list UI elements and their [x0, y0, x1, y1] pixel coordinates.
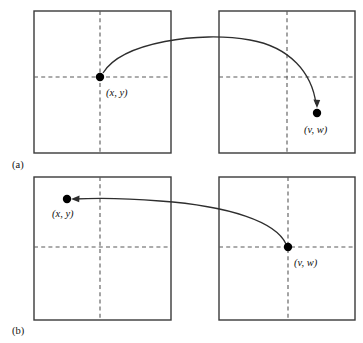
point-marker-1 [313, 109, 321, 117]
panel-b: (x, y)(v, w)(b) [12, 177, 355, 337]
panel-square-0 [34, 11, 171, 153]
panel-square-group-0 [34, 11, 171, 153]
figure-container: (x, y)(v, w)(a)(x, y)(v, w)(b) [0, 0, 363, 343]
panel-square-1 [219, 11, 355, 153]
panel-a: (x, y)(v, w)(a) [12, 11, 355, 171]
point-marker-1 [284, 243, 292, 251]
diagram-canvas: (x, y)(v, w)(a)(x, y)(v, w)(b) [0, 0, 363, 343]
point-label-0: (x, y) [106, 87, 128, 99]
panel-square-group-1 [219, 11, 355, 153]
point-label-0: (x, y) [52, 208, 74, 220]
panel-caption-1: (b) [12, 325, 25, 337]
panels-layer: (x, y)(v, w)(a)(x, y)(v, w)(b) [12, 11, 355, 337]
point-marker-0 [96, 73, 104, 81]
point-marker-0 [63, 195, 71, 203]
point-label-1: (v, w) [304, 124, 328, 136]
panel-caption-0: (a) [12, 159, 24, 171]
point-label-1: (v, w) [294, 257, 318, 269]
